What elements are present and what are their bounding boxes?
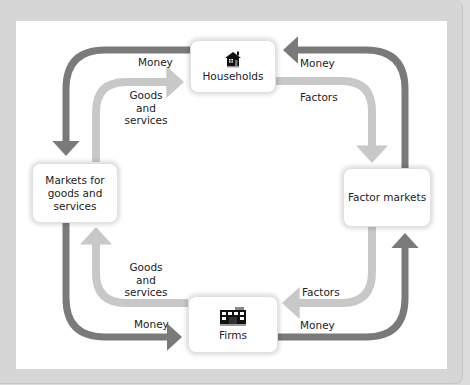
money-flow-to-factor-markets [277,240,405,337]
goods-markets-label-line-2: goods and [48,187,103,200]
label-money-bottom-left: Money [134,318,169,331]
goods-markets-node: Markets for goods and services [32,163,118,223]
label-money-top-left: Money [138,56,173,69]
label-goods-bottom-left-2: and [124,274,168,287]
label-goods-bottom-left-3: services [124,286,168,299]
building-icon [218,307,248,327]
goods-markets-label-line-3: services [53,200,96,213]
firms-label: Firms [219,329,247,342]
house-icon [224,50,242,68]
label-goods-top-left-2: and [124,102,168,115]
label-goods-bottom-left: Goods and services [124,261,168,299]
label-goods-top-left: Goods and services [124,89,168,127]
firms-node: Firms [188,296,278,353]
label-money-bottom-right: Money [300,319,335,332]
households-label: Households [202,70,263,83]
label-goods-bottom-left-1: Goods [124,261,168,274]
label-factors-top-right: Factors [300,91,338,104]
factor-markets-node: Factor markets [343,168,431,227]
label-goods-top-left-3: services [124,114,168,127]
households-node: Households [190,40,276,93]
label-factors-bottom-right: Factors [302,286,340,299]
goods-markets-label-line-1: Markets for [45,174,104,187]
factor-markets-label: Factor markets [348,191,426,204]
label-money-top-right: Money [300,57,335,70]
label-goods-top-left-1: Goods [124,89,168,102]
